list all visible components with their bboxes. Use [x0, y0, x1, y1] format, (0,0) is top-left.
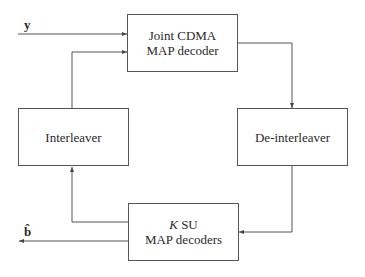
joint-cdma-map-decoder-block: Joint CDMA MAP decoder [127, 14, 238, 72]
interleaver-to-joint-arrow [72, 52, 127, 108]
interleaver-block: Interleaver [18, 108, 129, 166]
deinterleaver-to-su-arrow [239, 166, 292, 232]
k-su-map-decoders-block: K SU MAP decoders [128, 203, 239, 261]
joint-block-line1: Joint CDMA [149, 28, 217, 43]
su-text: SU [178, 217, 198, 232]
su-block-line2: MAP decoders [145, 232, 222, 247]
k-variable: K [169, 217, 178, 232]
deinterleaver-block: De-interleaver [237, 108, 348, 166]
su-block-line1: K SU [169, 217, 198, 232]
output-b-hat-label: b̂ [24, 224, 31, 240]
joint-to-deinterleaver-arrow [237, 43, 292, 108]
deinterleaver-label: De-interleaver [255, 130, 330, 145]
joint-block-line2: MAP decoder [146, 43, 218, 58]
input-y-label: y [24, 17, 31, 33]
su-to-interleaver-arrow [72, 167, 128, 222]
interleaver-label: Interleaver [45, 130, 101, 145]
